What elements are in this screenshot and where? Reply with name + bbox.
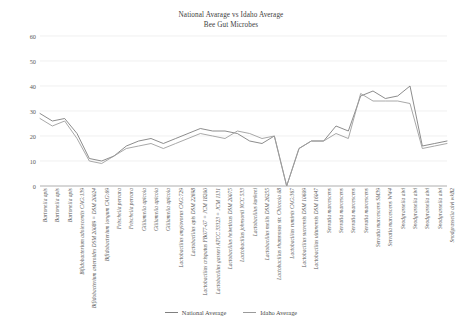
x-axis-tick-label: Lactobacillus ruminis CAG:367 (289, 188, 295, 259)
x-axis-tick-label: Bifidobacterium longum CAG:69 (104, 188, 110, 261)
x-axis-tick-label: Bifidobacterium asteroides DSM 20089 = D… (91, 188, 97, 308)
x-axis-tick-label: Serratia marcescens (326, 188, 332, 233)
x-axis-tick-label: Frischella perrara (116, 188, 122, 229)
x-axis-tick-label: Snodgrassella alvi (437, 188, 443, 229)
x-axis-tick-label: Bartonella apis (42, 188, 48, 222)
series-line-idaho (40, 94, 447, 187)
y-axis-tick-label: 20 (14, 133, 36, 140)
x-axis-tick-label: Lactobacillus amylovorus CAG:729 (178, 188, 184, 267)
x-axis-tick-label: Lactobacillus mellis DSM 26255 (264, 188, 270, 260)
x-axis-tick-label: Snodgrassella alvi (424, 188, 430, 229)
x-axis-tick-label: Serratia marcescens (350, 188, 356, 233)
x-axis-tick-label: Serratia marcescens SM39 (375, 188, 381, 247)
chart-legend: National Average Idaho Average (0, 309, 462, 316)
x-axis-tick-label: Lactobacillus gasseri ATCC 33323 = JCM 1… (215, 188, 221, 294)
x-axis-tick-label: Gilliamella apicola (153, 188, 159, 231)
x-axis-tick-label: Lactobacillus crispatus FB077-07 = JCM 1… (202, 188, 208, 296)
x-axis-tick-label: Snodgrassella alvi (400, 188, 406, 229)
x-axis-tick-label: Lactobacillus kunkeei (252, 188, 258, 236)
legend-item-idaho[interactable]: Idaho Average (243, 309, 297, 316)
x-axis-tick-label: Lactobacillus johnsonii NCC 533 (239, 188, 245, 262)
x-axis-tick-label: Lactobacillus apis DSM 22698 (190, 188, 196, 256)
x-axis-tick-label: Serratia marcescens (363, 188, 369, 233)
x-axis-tick-label: Lactobacillus rhamnosus str. Chiocola 08 (276, 188, 282, 280)
x-axis-tick-label: Serratia marcescens (338, 188, 344, 233)
y-axis-tick-label: 40 (14, 83, 36, 90)
x-axis-tick-label: Gilliamella apicola (141, 188, 147, 231)
legend-swatch-idaho-icon (243, 312, 256, 313)
legend-label-idaho: Idaho Average (260, 309, 297, 316)
x-axis-tick-label: Lactobacillus ultunensis DSM 16047 (313, 188, 319, 270)
legend-swatch-national-icon (165, 312, 178, 313)
x-axis-tick-label: Bartonella apis (67, 188, 73, 222)
x-axis-tick-label: Bartonella apis (54, 188, 60, 222)
legend-label-national: National Average (182, 309, 226, 316)
y-axis-tick-label: 50 (14, 58, 36, 65)
x-axis-tick-label: Frischella perrara (128, 188, 134, 229)
chart-container: National Avarage vs Idaho Average Bee Gu… (0, 0, 462, 333)
legend-item-national[interactable]: National Average (165, 309, 226, 316)
x-axis-tick-label: Bifidobacterium adolescentis CAG:139 (79, 188, 85, 275)
y-axis-tick-label: 30 (14, 108, 36, 115)
x-axis-tick-label: Serratia marcescens WW4 (387, 188, 393, 246)
x-axis-tick-label: Lactobacillus sucrensis DSM 10609 (301, 188, 307, 267)
x-axis-tick-label: Lactobacillus helveticus DSM 20075 (227, 188, 233, 269)
x-axis-tick-label: Snodgrassella alvi (412, 188, 418, 229)
x-axis-tick-label: Snodgrassella alvi wkB2 (449, 188, 455, 242)
y-axis-tick-label: 60 (14, 33, 36, 40)
x-axis-tick-label: Gilliamella apicola (165, 188, 171, 231)
y-axis-tick-label: 10 (14, 158, 36, 165)
x-axis-tick-labels: Bartonella apisBartonella apisBartonella… (0, 188, 462, 300)
